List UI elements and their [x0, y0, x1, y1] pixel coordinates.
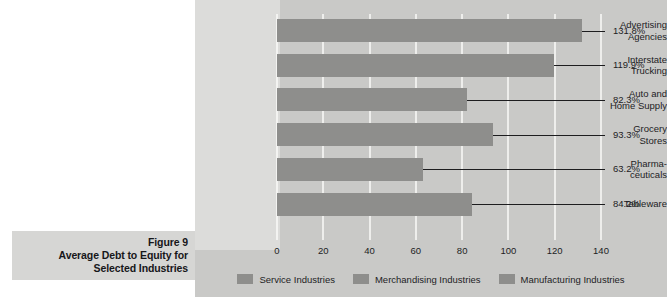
- legend-label: Service Industries: [259, 274, 335, 285]
- legend-swatch: [353, 274, 369, 284]
- figure-title-line-1: Average Debt to Equity for: [18, 249, 188, 262]
- x-tick-label: 20: [303, 245, 343, 256]
- x-tick-label: 100: [488, 245, 528, 256]
- figure-number: Figure 9: [18, 236, 188, 249]
- value-leader-line: [467, 100, 605, 101]
- value-label: 84.2%: [613, 198, 640, 209]
- x-tick-label: 40: [350, 245, 390, 256]
- legend-swatch: [237, 274, 253, 284]
- value-leader-line: [423, 169, 605, 170]
- value-leader-line: [554, 65, 605, 66]
- x-tick-label: 60: [396, 245, 436, 256]
- chart-legend: Service IndustriesMerchandising Industri…: [195, 268, 667, 290]
- x-tick-label: 0: [257, 245, 297, 256]
- plot-area: [277, 14, 601, 240]
- value-label: 93.3%: [613, 129, 640, 140]
- value-label: 131.8%: [613, 25, 645, 36]
- x-tick-label: 140: [581, 245, 621, 256]
- value-label: 82.3%: [613, 94, 640, 105]
- figure-title-line-2: Selected Industries: [18, 262, 188, 275]
- bar: [277, 88, 467, 111]
- bar: [277, 158, 423, 181]
- legend-item: Service Industries: [237, 274, 335, 285]
- bar: [277, 123, 493, 146]
- bar: [277, 193, 472, 216]
- legend-item: Merchandising Industries: [353, 274, 481, 285]
- category-label-strip: [195, 0, 280, 250]
- legend-item: Manufacturing Industries: [499, 274, 625, 285]
- value-label: 119.9%: [613, 59, 645, 70]
- page-bottom-margin: [195, 297, 667, 305]
- bar-row: [277, 49, 601, 84]
- value-leader-line: [493, 135, 605, 136]
- value-leader-line: [472, 204, 605, 205]
- value-label: 63.2%: [613, 163, 640, 174]
- legend-label: Merchandising Industries: [375, 274, 481, 285]
- x-tick-label: 120: [535, 245, 575, 256]
- bar-row: [277, 14, 601, 49]
- figure-caption-block: Figure 9 Average Debt to Equity for Sele…: [12, 231, 198, 280]
- chart-panel: Advertising AgenciesInterstate TruckingA…: [195, 0, 667, 297]
- legend-swatch: [499, 274, 515, 284]
- legend-label: Manufacturing Industries: [521, 274, 625, 285]
- x-tick-label: 80: [442, 245, 482, 256]
- bar: [277, 19, 582, 42]
- bar: [277, 54, 554, 77]
- value-leader-line: [582, 31, 605, 32]
